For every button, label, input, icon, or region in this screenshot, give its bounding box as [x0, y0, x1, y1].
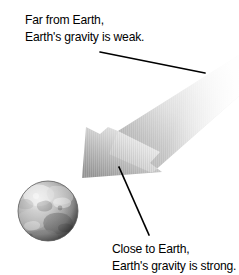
close-to-earth-caption: Close to Earth, Earth's gravity is stron… [112, 240, 236, 274]
gravity-diagram-figure: Far from Earth, Earth's gravity is weak.… [0, 0, 239, 275]
far-caption-leader-line [100, 52, 205, 73]
gravity-gradient-arrow [82, 55, 239, 178]
close-caption-line-2: Earth's gravity is strong. [112, 257, 236, 274]
far-caption-line-1: Far from Earth, [25, 11, 144, 28]
far-from-earth-caption: Far from Earth, Earth's gravity is weak. [25, 11, 144, 45]
arrow-tail-fade [109, 55, 239, 173]
close-caption-leader-line [119, 167, 149, 235]
close-caption-line-1: Close to Earth, [112, 240, 236, 257]
far-caption-line-2: Earth's gravity is weak. [25, 28, 144, 45]
earth-globe [17, 181, 78, 245]
